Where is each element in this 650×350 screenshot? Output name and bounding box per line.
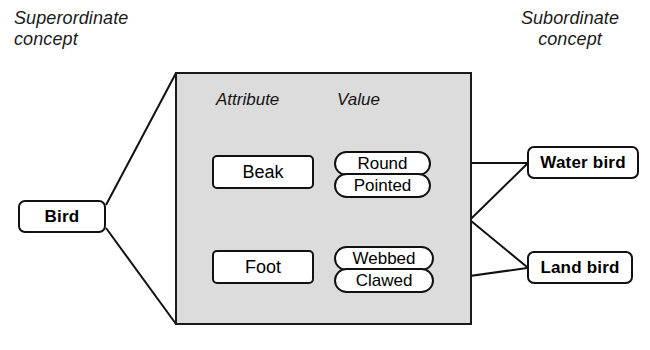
column-header-value: Value — [337, 90, 380, 110]
subordinate-caption: Subordinate concept — [505, 8, 635, 50]
value-node-clawed[interactable]: Clawed — [334, 268, 434, 293]
concept-node-bird[interactable]: Bird — [18, 200, 106, 233]
value-node-pointed[interactable]: Pointed — [334, 173, 431, 198]
attribute-node-beak[interactable]: Beak — [212, 155, 314, 189]
attribute-node-foot[interactable]: Foot — [212, 250, 314, 284]
concept-diagram: Attribute Value Superordinate concept Su… — [0, 0, 650, 350]
concept-node-land-bird[interactable]: Land bird — [527, 251, 633, 284]
link-bird-to-panel — [106, 73, 176, 324]
concept-node-water-bird[interactable]: Water bird — [527, 146, 639, 179]
column-header-attribute: Attribute — [216, 90, 279, 110]
superordinate-caption: Superordinate concept — [14, 8, 128, 50]
